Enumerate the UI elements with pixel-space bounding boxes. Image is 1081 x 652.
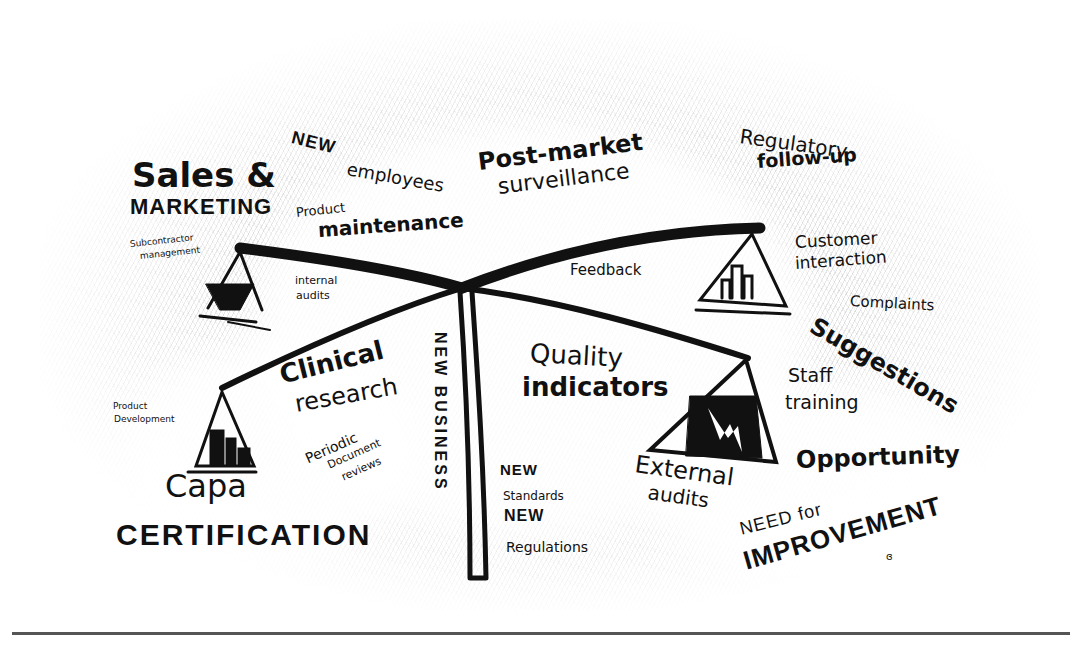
label-regulations: Regulations	[506, 540, 588, 554]
label-new-2: NEW	[504, 508, 544, 524]
upper-beam-left	[240, 248, 462, 288]
bottom-divider	[12, 632, 1070, 635]
pan-upper-right	[696, 234, 790, 314]
pan-upper-left	[200, 252, 270, 330]
label-feedback: Feedback	[570, 263, 641, 278]
label-product-development-2: Development	[114, 415, 175, 424]
label-training: training	[785, 393, 859, 412]
center-post	[460, 292, 486, 578]
label-certification: CERTIFICATION	[116, 520, 371, 550]
label-opportunity: Opportunity	[796, 442, 961, 472]
sketch-canvas: Sales & MARKETING Subcontractor manageme…	[0, 0, 1081, 652]
label-audits: audits	[296, 290, 330, 301]
label-complaints: Complaints	[850, 294, 935, 313]
label-new-business: NEW BUSINESS	[432, 332, 448, 492]
label-indicators: indicators	[522, 374, 669, 400]
pan-lower-right	[650, 360, 776, 462]
pan-lower-left	[188, 392, 256, 472]
label-new-1: NEW	[500, 462, 538, 477]
label-internal: internal	[295, 275, 337, 286]
label-marketing: MARKETING	[130, 196, 272, 218]
label-staff: Staff	[788, 366, 832, 385]
signature-mark: ɞ	[886, 552, 893, 562]
label-standards: Standards	[503, 490, 564, 502]
label-product-development-1: Product	[113, 402, 147, 411]
label-capa: Capa	[165, 470, 247, 502]
label-sales: Sales &	[132, 158, 276, 192]
label-quality: Quality	[529, 340, 623, 371]
